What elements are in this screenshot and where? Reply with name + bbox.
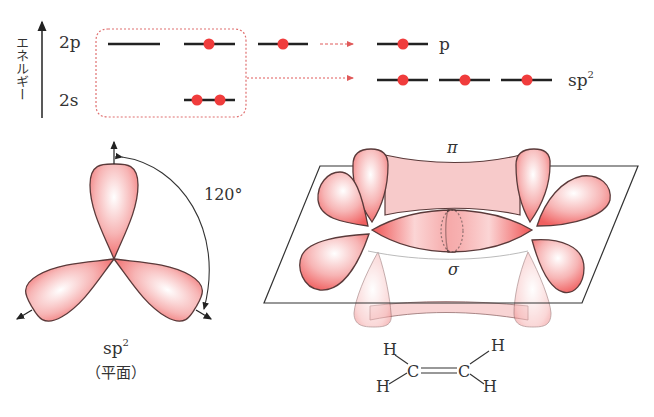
- electron: [398, 39, 409, 50]
- atom-h-bottom-left: H: [376, 377, 390, 396]
- energy-diagram: エネルギー 2p 2s p sp2: [15, 22, 594, 118]
- electron: [522, 75, 533, 86]
- atom-h-top-right: H: [491, 336, 505, 355]
- atom-h-top-left: H: [383, 340, 397, 359]
- atom-c-left: C: [407, 362, 419, 381]
- sp2-name: sp2: [103, 337, 129, 358]
- atom-c-right: C: [458, 362, 470, 381]
- sp2-lobe-lower-right: [102, 238, 208, 327]
- axis-arrow-left: [17, 310, 32, 319]
- sp2-lobe-lower-left: [20, 238, 126, 327]
- ethylene-orbital-model: π σ: [264, 138, 638, 327]
- svg-text:エネルギー: エネルギー: [15, 36, 30, 101]
- sp2-lobe-left-lower: [300, 234, 369, 290]
- label-p: p: [439, 34, 450, 54]
- p-lobe-lower-left: [354, 252, 391, 327]
- bond-h-c: [389, 373, 407, 384]
- sp2-trigonal-orbital: 120° sp2 （平面）: [17, 142, 243, 382]
- atom-h-bottom-right: H: [483, 377, 497, 396]
- electron: [192, 95, 203, 106]
- bond-h-c: [395, 355, 408, 364]
- level-label-2s: 2s: [59, 90, 79, 110]
- angle-label: 120°: [204, 185, 243, 204]
- bond-c-h: [470, 351, 489, 364]
- bond-c-h: [470, 374, 484, 384]
- electron: [215, 95, 226, 106]
- sigma-overlap: [441, 210, 463, 252]
- energy-axis-label: エネルギー: [15, 36, 30, 101]
- pi-bond-lower: [370, 302, 528, 321]
- pi-label: π: [446, 138, 458, 157]
- electron: [398, 75, 409, 86]
- sp2-lobe-top: [90, 164, 138, 259]
- label-sp2: sp2: [568, 69, 594, 90]
- pi-bond-upper: [385, 155, 520, 215]
- electron: [278, 39, 289, 50]
- geometry-label: （平面）: [86, 364, 146, 382]
- axis-arrow-right: [196, 310, 211, 319]
- sigma-label: σ: [448, 260, 460, 279]
- sp2-diagram: エネルギー 2p 2s p sp2: [0, 0, 654, 417]
- ethylene-structure: H H C C H H: [376, 336, 505, 396]
- level-label-2p: 2p: [59, 32, 81, 52]
- electron: [204, 39, 215, 50]
- electron: [460, 75, 471, 86]
